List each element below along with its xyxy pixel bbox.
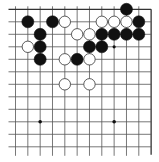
star-point-icon <box>38 120 42 124</box>
white-stone[interactable] <box>96 16 107 27</box>
white-stone[interactable] <box>84 54 95 65</box>
black-stone[interactable] <box>96 28 108 40</box>
black-stone[interactable] <box>34 28 46 40</box>
markers-layer <box>113 45 116 48</box>
white-stone[interactable] <box>59 54 70 65</box>
black-stone[interactable] <box>133 16 145 28</box>
black-stone[interactable] <box>71 53 83 65</box>
white-stone[interactable] <box>108 16 119 27</box>
white-stone[interactable] <box>84 79 95 90</box>
black-stone[interactable] <box>34 41 46 53</box>
white-stone[interactable] <box>22 41 33 52</box>
star-point-icon <box>112 120 116 124</box>
go-board[interactable] <box>0 0 159 162</box>
point-marker-icon <box>113 45 116 48</box>
white-stone[interactable] <box>71 29 82 40</box>
black-stone[interactable] <box>120 28 132 40</box>
white-stone[interactable] <box>121 16 132 27</box>
black-stone[interactable] <box>108 28 120 40</box>
white-stone[interactable] <box>59 79 70 90</box>
black-stone[interactable] <box>34 53 46 65</box>
black-stone[interactable] <box>96 41 108 53</box>
board-grid <box>9 6 152 156</box>
black-stone[interactable] <box>133 28 145 40</box>
black-stone[interactable] <box>46 16 58 28</box>
white-stone[interactable] <box>84 29 95 40</box>
white-stone[interactable] <box>59 16 70 27</box>
black-stone[interactable] <box>83 41 95 53</box>
black-stone[interactable] <box>22 16 34 28</box>
black-stone[interactable] <box>120 3 132 15</box>
